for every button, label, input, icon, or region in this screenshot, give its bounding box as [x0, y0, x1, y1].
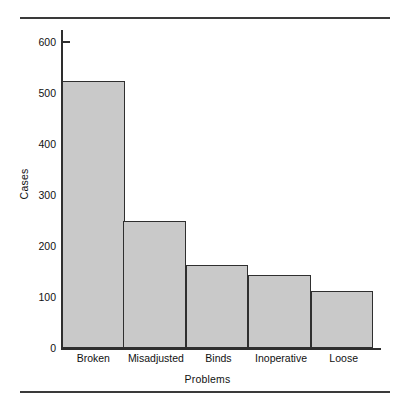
bar-slot: [125, 30, 188, 348]
y-axis-tick-label: 500: [26, 88, 56, 99]
bar-series: [62, 30, 375, 348]
x-axis-label-binds: Binds: [187, 352, 250, 364]
x-axis-label-inoperative: Inoperative: [250, 352, 313, 364]
x-axis-line: [61, 348, 381, 350]
y-axis-tick-label: 0: [26, 343, 56, 354]
bottom-rule: [20, 391, 390, 393]
y-axis-tick-label: 400: [26, 139, 56, 150]
bar-misadjusted[interactable]: [123, 221, 186, 348]
figure-bar-chart: 0100200300400500600 BrokenMisadjustedBin…: [0, 0, 415, 408]
y-axis-tick-label: 600: [26, 37, 56, 48]
x-axis-label-broken: Broken: [62, 352, 125, 364]
y-axis-tick-label: 300: [26, 190, 56, 201]
bar-slot: [312, 30, 375, 348]
x-axis-category-labels: BrokenMisadjustedBindsInoperativeLoose: [62, 352, 375, 364]
top-rule: [20, 17, 390, 19]
bar-slot: [62, 30, 125, 348]
x-axis-title: Problems: [0, 373, 415, 385]
bar-inoperative[interactable]: [248, 275, 311, 348]
bar-broken[interactable]: [62, 81, 125, 348]
y-axis-tick-label: 200: [26, 241, 56, 252]
bar-slot: [187, 30, 250, 348]
y-axis-tick-label: 100: [26, 292, 56, 303]
y-axis-title: Cases: [18, 154, 30, 214]
x-axis-label-misadjusted: Misadjusted: [125, 352, 188, 364]
bar-loose[interactable]: [311, 291, 374, 348]
bar-binds[interactable]: [186, 265, 249, 348]
x-axis-label-loose: Loose: [312, 352, 375, 364]
bar-slot: [250, 30, 313, 348]
